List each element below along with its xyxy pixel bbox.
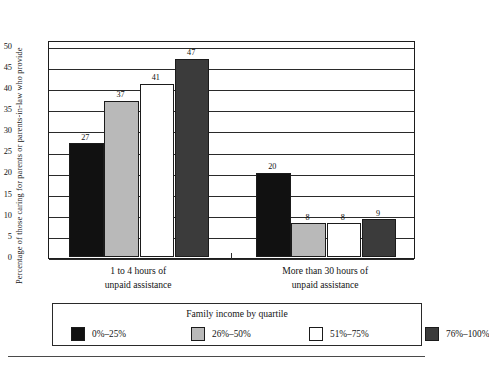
bar-value-label-g1-3: 41 [139,74,174,82]
legend-item-1: 0%–25% [71,326,126,342]
bar-value-label-g2-3: 8 [326,214,361,222]
bar-value-label-g1-4: 47 [174,49,209,57]
bar-value-label-g2-2: 8 [290,214,325,222]
bar-g2-2 [291,223,326,257]
x-category-line: More than 30 hours of [240,264,410,278]
legend-swatch-3 [309,327,323,341]
y-tick-label-5: 5 [0,233,12,241]
page-bottom-rule [8,356,425,357]
bar-g1-4 [175,59,210,257]
bar-g2-3 [327,223,362,257]
legend-label-1: 0%–25% [92,329,126,339]
legend-label-3: 51%–75% [330,329,369,339]
bar-value-label-g2-1: 20 [255,163,290,171]
y-tick-label-25: 25 [0,148,12,156]
y-tick-label-30: 30 [0,127,12,135]
bar-value-label-g2-4: 9 [361,210,396,218]
x-category-line: unpaid assistance [53,278,223,292]
legend: Family income by quartile 0%–25%26%–50%5… [52,303,422,346]
y-tick-label-50: 50 [0,43,12,51]
y-tick-label-35: 35 [0,106,12,114]
legend-item-4: 76%–100% [425,326,489,342]
y-tick-label-40: 40 [0,85,12,93]
bar-value-label-g1-2: 37 [103,91,138,99]
bar-g1-3 [140,84,175,257]
baseline-center-tick [231,253,232,260]
legend-swatch-2 [191,327,205,341]
bar-value-label-g1-1: 27 [68,134,103,142]
bar-g1-2 [104,101,139,257]
legend-swatch-4 [425,327,439,341]
legend-items: 0%–25%26%–50%51%–75%76%–100% [61,326,413,342]
y-tick-label-10: 10 [0,212,12,220]
y-axis-title-text: Percentage of those caring for parents o… [15,48,24,284]
x-category-label-2: More than 30 hours ofunpaid assistance [240,264,410,291]
gridline-45 [49,69,414,70]
x-category-line: 1 to 4 hours of [53,264,223,278]
x-category-line: unpaid assistance [240,278,410,292]
bar-g1-1 [69,143,104,257]
x-category-label-1: 1 to 4 hours ofunpaid assistance [53,264,223,291]
y-tick-label-15: 15 [0,191,12,199]
legend-item-2: 26%–50% [191,326,251,342]
y-tick-label-20: 20 [0,169,12,177]
legend-item-3: 51%–75% [309,326,369,342]
plot-inner [49,42,414,258]
legend-swatch-1 [71,327,85,341]
bar-g2-4 [362,219,397,257]
legend-label-2: 26%–50% [212,329,251,339]
legend-title: Family income by quartile [53,308,421,319]
legend-label-4: 76%–100% [446,329,489,339]
y-tick-label-45: 45 [0,64,12,72]
gridline-50 [49,48,414,49]
plot-area [48,41,415,259]
bar-g2-1 [256,173,291,257]
y-tick-label-0: 0 [0,254,12,262]
